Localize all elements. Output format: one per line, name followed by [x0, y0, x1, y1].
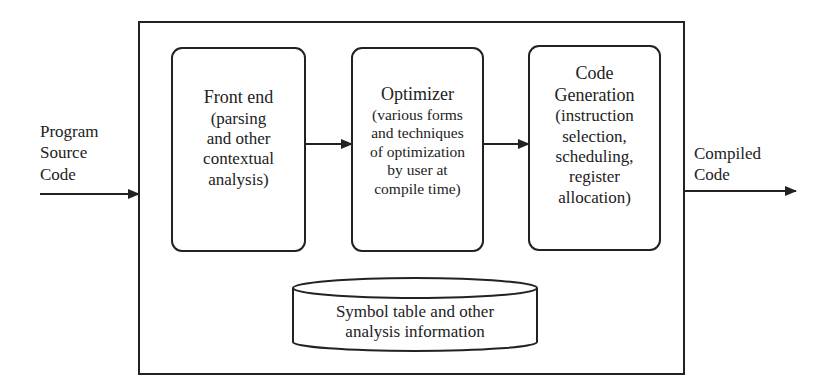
- code-generation-detail-line: register: [529, 167, 660, 187]
- optimizer-detail-line: and techniques: [352, 124, 483, 143]
- symbol-table-label: Symbol table and other analysis informat…: [293, 302, 537, 341]
- front-end-detail-line: analysis): [172, 170, 305, 190]
- input-label-line: Program: [40, 121, 99, 142]
- input-label-line: Code: [40, 164, 99, 185]
- code-generation-title-line: Code: [529, 63, 660, 85]
- code-generation-label: Code Generation (instruction selection, …: [529, 63, 660, 208]
- optimizer-detail-line: by user at: [352, 161, 483, 180]
- optimizer-label: Optimizer (various forms and techniques …: [352, 84, 483, 199]
- optimizer-detail-line: of optimization: [352, 143, 483, 162]
- front-end-detail-line: contextual: [172, 149, 305, 169]
- output-label-line: Compiled: [694, 143, 761, 164]
- output-label: Compiled Code: [694, 143, 761, 186]
- code-generation-detail-line: scheduling,: [529, 147, 660, 167]
- output-label-line: Code: [694, 164, 761, 185]
- code-generation-detail-line: selection,: [529, 127, 660, 147]
- optimizer-detail-line: compile time): [352, 180, 483, 199]
- symbol-table-label-line: Symbol table and other: [293, 302, 537, 322]
- code-generation-title-line: Generation: [529, 85, 660, 107]
- front-end-label: Front end (parsing and other contextual …: [172, 87, 305, 190]
- code-generation-detail-line: allocation): [529, 188, 660, 208]
- front-end-detail-line: and other: [172, 129, 305, 149]
- symbol-table-label-line: analysis information: [293, 322, 537, 342]
- input-label: Program Source Code: [40, 121, 99, 185]
- front-end-title: Front end: [172, 87, 305, 109]
- input-label-line: Source: [40, 142, 99, 163]
- code-generation-detail-line: (instruction: [529, 106, 660, 126]
- front-end-detail-line: (parsing: [172, 109, 305, 129]
- optimizer-title: Optimizer: [352, 84, 483, 106]
- optimizer-detail-line: (various forms: [352, 106, 483, 125]
